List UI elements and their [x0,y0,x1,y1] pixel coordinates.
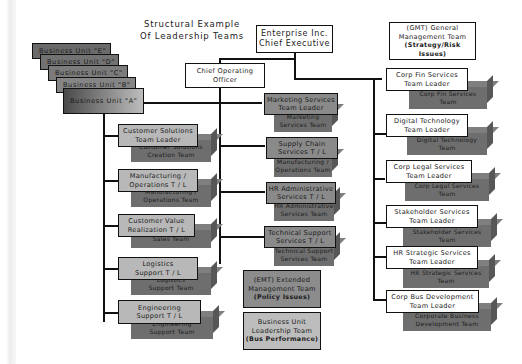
connector [219,236,265,238]
team-leader-box[interactable]: Supply Chain Services T / L [266,137,338,159]
connector [219,58,295,60]
emt-line-1: (EMT) Extended [254,276,311,285]
connector [373,299,387,301]
coo-line-1: Chief Operating [197,67,254,76]
team-leader-box[interactable]: Stakeholder Services Team Leader [386,205,478,228]
team-line-2: Team [438,144,455,152]
leader-line-2: Services T / L [276,237,324,246]
connector [103,135,118,137]
leader-line-1: Engineering [138,304,181,313]
bult-line-2: Leadership Team [252,327,312,336]
leader-line-1: Stakeholder Services [394,208,469,217]
team-line-2: Operations Team [143,196,198,204]
bult-line-1: Business Unit [258,318,307,327]
leader-line-2: Team Leader [404,80,449,89]
connector [373,256,387,258]
connector [373,222,387,224]
connector [373,133,387,135]
bult-box[interactable]: Business Unit Leadership Team (Bus Perfo… [243,312,321,350]
team-leader-box[interactable]: Corp Legal Services Team Leader [386,160,472,183]
team-line-2: Services Team [280,121,327,129]
connector [294,52,296,78]
leader-line-1: Corp Bus Development [391,293,473,302]
connector [103,268,118,270]
leader-line-2: Services T / L [277,193,325,202]
team-leader-box[interactable]: Logistics Support T / L [118,257,198,280]
gmt-line-2: Management Team [399,33,466,42]
leader-line-1: Logistics [142,260,173,269]
team-line-2: Services Team [281,210,328,218]
leader-line-1: Corp Fin Services [396,71,458,80]
team-leader-box[interactable]: Engineering Support T / L [118,300,201,324]
team-line-1: Stakeholder Services [412,228,481,236]
leader-line-1: HR Administrative [269,185,334,194]
connector [294,78,382,80]
team-block: Stakeholder Services Team [403,225,491,247]
team-leader-box[interactable]: Corp Fin Services Team Leader [386,68,468,91]
team-leader-box[interactable]: Digital Technology Team Leader [386,114,468,137]
team-line-2: Support Team [149,328,194,336]
ceo-box[interactable]: Enterprise Inc. Chief Executive [256,25,333,53]
leader-line-1: Technical Support [268,229,332,238]
team-leader-box[interactable]: Customer Value Realization T / L [118,214,195,237]
team-line-1: Manufacturing / [277,158,329,166]
leader-line-2: Team Leader [409,217,454,226]
team-line-1: HR Strategic Services [410,269,481,277]
coo-box[interactable]: Chief Operating Officer [185,63,265,88]
business-unit-c-label: Business Unit "C" [55,69,123,77]
leader-line-2: Support T / L [136,312,182,321]
team-leader-box[interactable]: HR Strategic Services Team Leader [386,246,478,269]
gmt-line-1: (GMT) General [407,24,459,33]
connector [103,180,118,182]
team-leader-box[interactable]: Corp Bus Development Team Leader [386,290,479,313]
leader-line-1: Corp Legal Services [394,163,465,172]
leader-line-1: Marketing Services [267,96,335,105]
leader-line-1: HR Strategic Services [393,249,471,258]
team-line-1: Corp Fin Services [420,90,477,98]
connector [103,225,118,227]
team-line-2: Team [439,98,456,106]
leader-line-2: Team Leader [406,172,451,181]
team-line-2: Team [438,190,455,198]
business-unit-a[interactable]: Business Unit "A" [63,88,144,114]
connector [373,178,385,180]
team-line-2: Services Team [281,255,328,263]
leader-line-1: Digital Technology [394,117,460,126]
team-block: HR Strategic Services Team [403,266,489,288]
leader-line-2: Services T / L [278,148,326,157]
team-leader-box[interactable]: Marketing Services Team Leader [264,93,338,115]
leader-line-2: Realization T / L [128,226,186,235]
team-line-2: Operations Team [275,166,330,174]
team-line-2: Team [438,236,455,244]
team-leader-box[interactable]: Customer Solutions Team Leader [118,124,198,147]
connector [103,110,105,322]
team-leader-box[interactable]: HR Administrative Services T / L [266,182,336,204]
team-line-1: Corp Legal Services [414,182,479,190]
team-line-1: Digital Technology [417,136,477,144]
team-leader-box[interactable]: Technical Support Services T / L [264,226,336,248]
leader-line-1: Supply Chain [278,140,325,149]
emt-box[interactable]: (EMT) Extended Management Team (Policy I… [243,270,321,308]
leader-line-2: Team Leader [404,126,449,135]
leader-line-2: Support T / L [135,269,181,278]
gmt-box[interactable]: (GMT) General Management Team (Strategy/… [389,22,476,60]
leader-line-2: Team Leader [409,258,454,267]
team-line-2: Creation Team [147,151,194,159]
team-line-2: Team [437,277,454,285]
connector [103,312,118,314]
connector [373,78,375,300]
diagram-title: Structural Example Of Leadership Teams [122,18,262,42]
connector [142,102,262,104]
team-line-2: Support Team [148,284,193,292]
emt-line-3: (Policy Issues) [254,293,311,302]
title-line-1: Structural Example [122,18,262,30]
leader-line-2: Team Leader [410,302,455,311]
leader-line-2: Team Leader [135,136,180,145]
connector [219,191,265,193]
leader-line-1: Customer Solutions [123,127,193,136]
team-line-1: Corporate Business [415,312,479,320]
team-leader-box[interactable]: Manufacturing / Operations T / L [118,169,198,192]
bult-line-3: (Bus Performance) [246,335,319,344]
ceo-line-1: Enterprise Inc. [261,29,328,39]
leader-line-2: Operations T / L [129,181,186,190]
